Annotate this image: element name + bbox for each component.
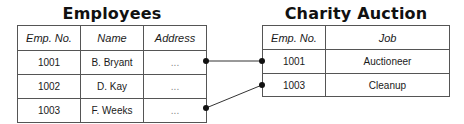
connector-dot-icon [259, 82, 265, 88]
link-line-1003 [206, 85, 262, 108]
connector-dot-icon [203, 58, 209, 64]
link-connectors [0, 0, 464, 124]
connector-dot-icon [203, 105, 209, 111]
connector-dot-icon [259, 58, 265, 64]
